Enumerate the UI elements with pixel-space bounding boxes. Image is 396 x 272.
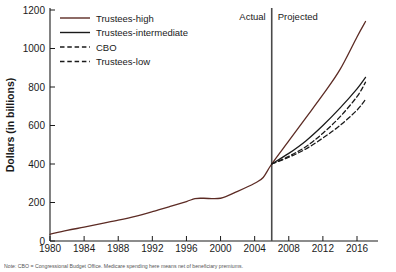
x-tick-label: 1984 [73, 243, 96, 254]
actual-region-label: Actual [239, 11, 265, 22]
y-axis-title: Dollars (in billions) [4, 78, 16, 173]
x-tick-label: 2016 [346, 243, 369, 254]
x-tick-label: 2000 [209, 243, 232, 254]
medicare-spending-line-chart: 120010008006004002000 198019841988199219… [0, 0, 396, 272]
x-tick-label: 1992 [141, 243, 164, 254]
legend-label-trustees-intermediate: Trustees-intermediate [96, 27, 188, 38]
y-tick-label: 1200 [23, 5, 46, 16]
projected-region-label: Projected [278, 11, 318, 22]
y-tick-label: 400 [28, 159, 45, 170]
x-tick-label: 2008 [278, 243, 301, 254]
y-tick-label: 600 [28, 120, 45, 131]
x-tick-label: 1996 [175, 243, 198, 254]
chart-figure: 120010008006004002000 198019841988199219… [0, 0, 396, 272]
x-tick-label: 2012 [312, 243, 335, 254]
x-tick-label: 1980 [39, 243, 62, 254]
y-tick-label: 200 [28, 197, 45, 208]
y-tick-label: 800 [28, 82, 45, 93]
legend-label-cbo: CBO [96, 42, 117, 53]
figure-caption: Note: CBO = Congressional Budget Office.… [4, 263, 394, 269]
legend-label-trustees-high: Trustees-high [96, 13, 154, 24]
x-tick-label: 1988 [107, 243, 130, 254]
legend-label-trustees-low: Trustees-low [96, 56, 150, 67]
y-tick-label: 1000 [23, 43, 46, 54]
x-tick-label: 2004 [244, 243, 267, 254]
